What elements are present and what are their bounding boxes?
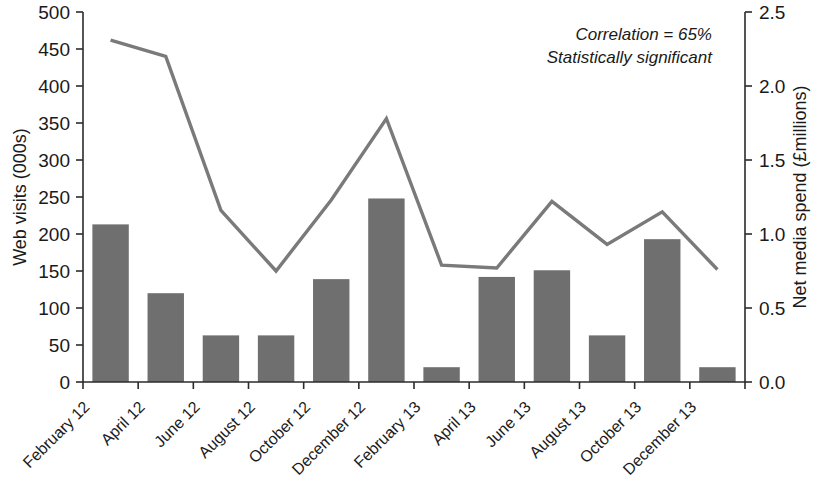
bar — [92, 224, 128, 382]
x-axis-labels: February 12April 12June 12August 12Octob… — [20, 398, 700, 478]
right-tick-label: 1.0 — [759, 224, 785, 245]
right-tick-label: 0.5 — [759, 298, 785, 319]
chart-container: 050100150200250300350400450500 0.00.51.0… — [0, 0, 816, 479]
right-tick-label: 0.0 — [759, 372, 785, 393]
line-series — [111, 40, 718, 271]
bar — [313, 279, 349, 382]
left-tick-label: 400 — [38, 76, 70, 97]
left-axis: 050100150200250300350400450500 — [38, 2, 83, 393]
bar — [148, 293, 184, 382]
right-axis-ticks: 0.00.51.01.52.02.5 — [745, 2, 785, 393]
left-tick-label: 0 — [59, 372, 70, 393]
bar — [589, 335, 625, 382]
x-axis-category-label: April 12 — [97, 398, 147, 448]
left-tick-label: 350 — [38, 113, 70, 134]
left-axis-ticks: 050100150200250300350400450500 — [38, 2, 83, 393]
x-axis-category-label: April 13 — [428, 398, 478, 448]
right-tick-label: 2.0 — [759, 76, 785, 97]
annotation-correlation: Correlation = 65% — [575, 25, 712, 44]
annotation-block: Correlation = 65% Statistically signific… — [547, 25, 714, 67]
bar — [699, 367, 735, 382]
annotation-significance: Statistically significant — [547, 48, 714, 67]
right-axis: 0.00.51.01.52.02.5 — [745, 2, 785, 393]
left-axis-title: Web visits (000s) — [10, 128, 30, 266]
left-tick-label: 200 — [38, 224, 70, 245]
left-tick-label: 250 — [38, 187, 70, 208]
x-axis-category-label: February 12 — [20, 398, 93, 471]
plot-area — [92, 40, 735, 382]
x-axis-category-label: June 12 — [151, 398, 203, 450]
left-tick-label: 50 — [49, 335, 70, 356]
bar — [479, 277, 515, 382]
left-tick-label: 500 — [38, 2, 70, 23]
bar — [644, 239, 680, 382]
right-tick-label: 2.5 — [759, 2, 785, 23]
bar — [423, 367, 459, 382]
left-tick-label: 300 — [38, 150, 70, 171]
bar — [203, 335, 239, 382]
left-tick-label: 150 — [38, 261, 70, 282]
dual-axis-chart: 050100150200250300350400450500 0.00.51.0… — [0, 0, 816, 479]
left-tick-label: 100 — [38, 298, 70, 319]
x-axis-category-label: June 13 — [482, 398, 534, 450]
left-tick-label: 450 — [38, 39, 70, 60]
bar — [534, 270, 570, 382]
bar — [258, 335, 294, 382]
right-axis-title: Net media spend (£millions) — [790, 85, 810, 308]
x-axis-ticks — [83, 382, 745, 389]
bar — [368, 198, 404, 382]
right-tick-label: 1.5 — [759, 150, 785, 171]
x-axis: February 12April 12June 12August 12Octob… — [20, 382, 745, 478]
